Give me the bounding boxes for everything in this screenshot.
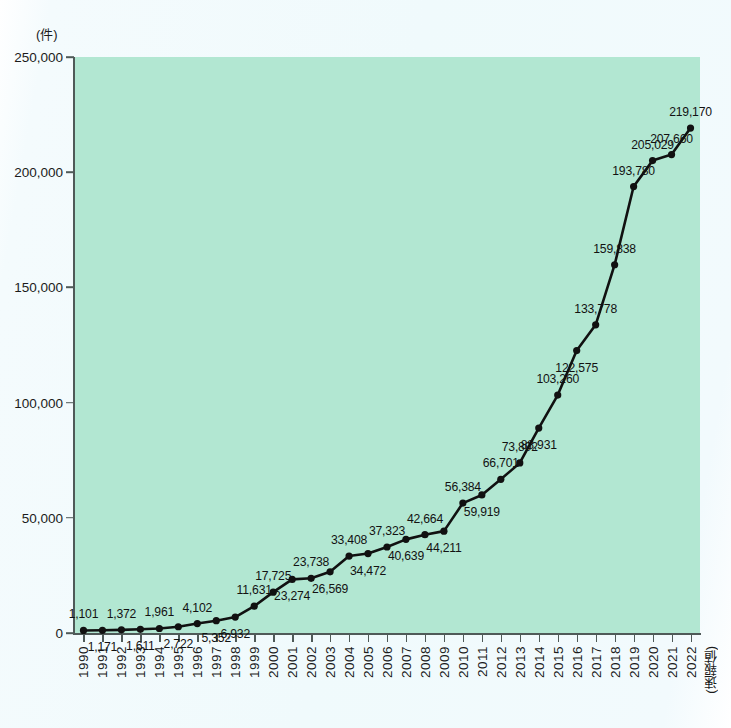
- y-tick-label: 50,000: [22, 510, 63, 525]
- data-point-label: 26,569: [312, 582, 348, 596]
- data-point-label: 4,102: [183, 601, 213, 615]
- data-point-label: 1,372: [107, 607, 137, 621]
- data-point-label: 159,838: [593, 242, 636, 256]
- data-point-label: 44,211: [426, 541, 461, 555]
- x-tick-label: 2002: [304, 646, 319, 678]
- x-tick-label: 1999: [247, 646, 262, 678]
- x-tick-mark: [653, 634, 654, 642]
- x-tick-label: 2020: [645, 646, 660, 678]
- y-tick-label: 100,000: [14, 395, 63, 410]
- x-tick-mark: [501, 634, 502, 642]
- preliminary-value-note: (速報値): [701, 646, 720, 694]
- data-point-label: 133,778: [574, 302, 617, 316]
- x-tick-label: 2018: [607, 646, 622, 678]
- x-tick-label: 2005: [361, 646, 376, 678]
- x-tick-label: 2016: [569, 646, 584, 678]
- x-tick-label: 2000: [266, 646, 281, 678]
- x-tick-label: 2012: [493, 646, 508, 678]
- x-tick-mark: [349, 634, 350, 642]
- y-axis-tick-labels: 250,000200,000150,000100,00050,0000: [0, 0, 63, 728]
- x-tick-mark: [121, 634, 122, 642]
- data-point-label: 40,639: [388, 549, 424, 563]
- x-tick-label: 2009: [436, 646, 451, 678]
- x-tick-label: 1995: [171, 646, 186, 678]
- y-tick-label: 150,000: [14, 280, 63, 295]
- x-tick-mark: [482, 634, 483, 642]
- data-point-label: 1,171: [88, 640, 118, 654]
- chart-page: (件) 250,000200,000150,000100,00050,0000 …: [0, 0, 731, 728]
- x-tick-label: 2011: [474, 646, 489, 677]
- x-tick-label: 1998: [228, 646, 243, 678]
- data-point-label: 1,101: [69, 607, 99, 621]
- data-point-label: 42,664: [407, 512, 443, 526]
- x-tick-mark: [596, 634, 597, 642]
- x-tick-mark: [159, 634, 160, 642]
- y-axis-line: [73, 57, 75, 634]
- data-point-label: 11,631: [237, 583, 272, 597]
- x-tick-label: 2022: [683, 646, 698, 678]
- x-tick-label: 2010: [455, 646, 470, 678]
- data-point-label: 37,323: [369, 524, 405, 538]
- x-tick-mark: [672, 634, 673, 642]
- x-tick-mark: [634, 634, 635, 642]
- x-tick-mark: [691, 634, 692, 642]
- x-tick-label: 2008: [417, 646, 432, 678]
- x-tick-label: 1996: [190, 646, 205, 678]
- x-tick-label: 2014: [531, 646, 546, 678]
- y-tick-label: 0: [55, 626, 63, 641]
- x-tick-mark: [539, 634, 540, 642]
- data-point-label: 59,919: [464, 505, 500, 519]
- x-tick-label: 2007: [398, 646, 413, 678]
- x-tick-mark: [520, 634, 521, 642]
- y-tick-label: 250,000: [14, 50, 63, 65]
- x-tick-mark: [254, 634, 255, 642]
- y-tick-mark: [66, 171, 74, 173]
- y-tick-mark: [66, 287, 74, 289]
- data-point-label: 207,660: [650, 132, 693, 146]
- data-point-label: 193,780: [612, 164, 655, 178]
- x-tick-mark: [273, 634, 274, 642]
- x-tick-label: 2017: [588, 646, 603, 678]
- x-tick-mark: [406, 634, 407, 642]
- data-point-label: 1,611: [126, 639, 155, 653]
- data-point-label: 1,961: [145, 605, 175, 619]
- data-point-label: 34,472: [350, 564, 386, 578]
- data-point-label: 219,170: [669, 105, 712, 119]
- x-tick-mark: [615, 634, 616, 642]
- data-point-label: 17,725: [255, 569, 291, 583]
- x-tick-label: 2019: [626, 646, 641, 678]
- x-tick-label: 1997: [209, 646, 224, 678]
- x-tick-mark: [444, 634, 445, 642]
- x-tick-mark: [292, 634, 293, 642]
- plot-area: [74, 57, 700, 633]
- x-tick-mark: [463, 634, 464, 642]
- data-point-label: 6,932: [220, 627, 250, 641]
- x-tick-mark: [425, 634, 426, 642]
- data-point-label: 122,575: [555, 361, 598, 375]
- x-tick-mark: [83, 634, 84, 642]
- y-tick-mark: [66, 56, 74, 58]
- x-tick-label: 2006: [380, 646, 395, 678]
- x-tick-mark: [368, 634, 369, 642]
- data-point-label: 88,931: [521, 438, 557, 452]
- y-tick-mark: [66, 632, 74, 634]
- data-point-label: 56,384: [445, 480, 481, 494]
- y-tick-mark: [66, 402, 74, 404]
- x-tick-label: 2013: [512, 646, 527, 678]
- x-tick-mark: [558, 634, 559, 642]
- x-tick-label: 2001: [285, 646, 300, 678]
- data-point-label: 23,738: [293, 555, 329, 569]
- x-tick-mark: [387, 634, 388, 642]
- x-tick-label: 2021: [664, 646, 679, 678]
- x-tick-mark: [311, 634, 312, 642]
- x-tick-mark: [577, 634, 578, 642]
- data-point-label: 33,408: [331, 533, 367, 547]
- y-tick-label: 200,000: [14, 165, 63, 180]
- data-point-label: 66,701: [483, 456, 519, 470]
- x-tick-label: 2015: [550, 646, 565, 678]
- x-tick-label: 2004: [342, 646, 357, 678]
- x-tick-label: 2003: [323, 646, 338, 678]
- x-tick-mark: [197, 634, 198, 642]
- x-tick-mark: [330, 634, 331, 642]
- data-point-label: 2,722: [164, 637, 194, 651]
